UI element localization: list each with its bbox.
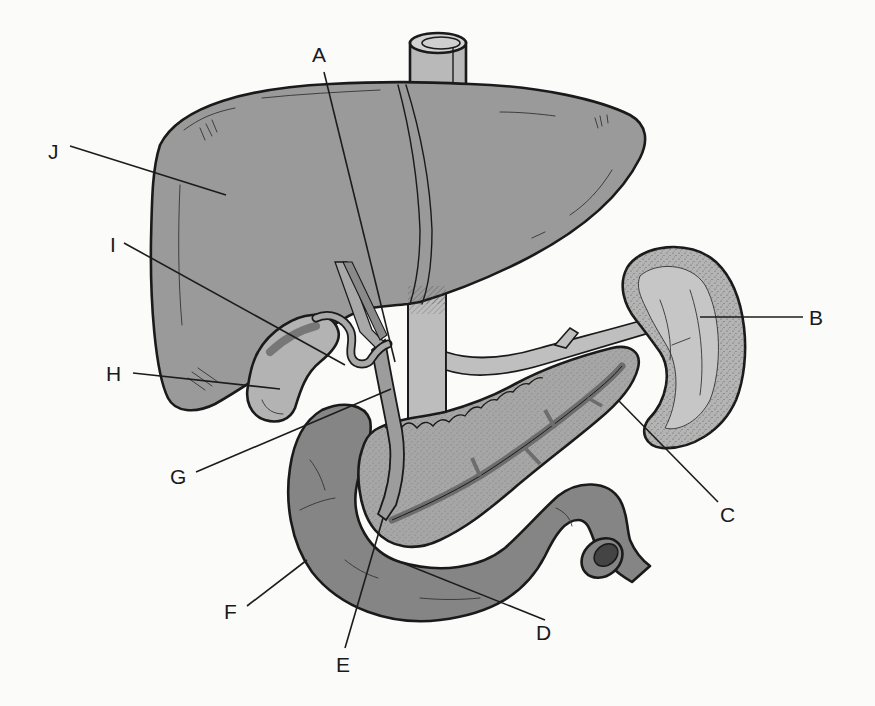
label-G: G [170,465,186,488]
label-D: D [536,621,551,644]
label-I: I [110,233,116,256]
label-C: C [720,503,735,526]
label-B: B [809,306,823,329]
aorta [408,292,446,432]
label-A: A [312,43,326,66]
label-F: F [224,600,237,623]
label-H: H [106,362,121,385]
label-J: J [48,140,59,163]
label-E: E [336,653,350,676]
anatomy-diagram: A B C D E F G H I J [0,0,875,706]
